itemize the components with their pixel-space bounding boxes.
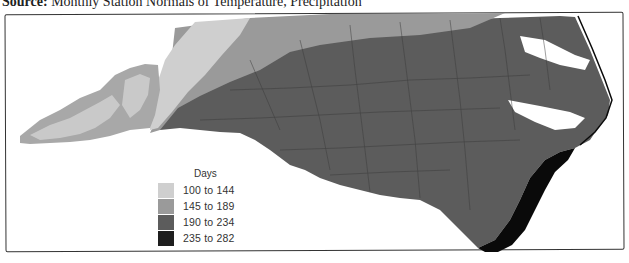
legend-swatch (158, 199, 174, 214)
legend-item: 235 to 282 (158, 230, 235, 246)
legend-label: 190 to 234 (183, 216, 235, 228)
legend-item: 100 to 144 (158, 182, 235, 198)
legend-label: 100 to 144 (183, 184, 235, 196)
legend-label: 235 to 282 (183, 232, 235, 244)
legend-label: 145 to 189 (183, 200, 235, 212)
legend-item: 190 to 234 (158, 214, 235, 230)
north-carolina-map (0, 0, 629, 263)
legend-swatch (158, 215, 174, 230)
legend-swatch (158, 231, 174, 246)
legend-swatch (158, 183, 174, 198)
legend-item: 145 to 189 (158, 198, 235, 214)
legend-title: Days (194, 168, 217, 179)
